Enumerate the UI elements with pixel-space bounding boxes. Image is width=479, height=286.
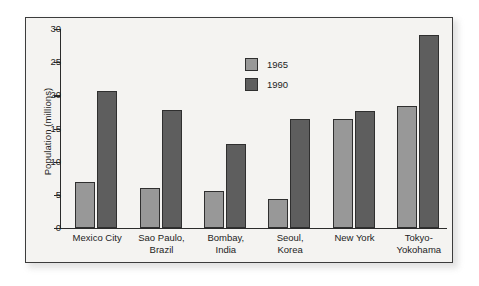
legend-label-1990: 1990: [267, 79, 288, 90]
bar-1965: [397, 106, 417, 228]
bar-1965: [333, 119, 353, 228]
y-tick-label: 20: [39, 89, 61, 100]
bar-chart: Population (millions) 051015202530 Mexic…: [26, 18, 452, 262]
x-axis-line: [60, 228, 447, 229]
bar-1965: [140, 188, 160, 228]
y-tick-label: 5: [39, 189, 61, 200]
x-axis-label-line: Tokyo-: [380, 232, 458, 244]
chart-frame: Population (millions) 051015202530 Mexic…: [25, 17, 453, 263]
bar-1990: [355, 111, 375, 228]
x-axis-label-line: Yokohama: [380, 244, 458, 256]
bar-1965: [75, 182, 95, 228]
legend-item-1965: 1965: [245, 56, 288, 73]
x-axis-label: Tokyo-Yokohama: [380, 232, 458, 255]
bar-1965: [204, 191, 224, 228]
bar-1990: [419, 35, 439, 228]
bar-1990: [162, 110, 182, 228]
bar-1990: [97, 91, 117, 228]
bar-group-bombay-india: Bombay,India: [204, 29, 246, 228]
bar-1965: [268, 199, 288, 228]
legend-swatch-1990: [245, 78, 258, 91]
y-tick-label: 10: [39, 156, 61, 167]
bar-group-new-york: New York: [333, 29, 375, 228]
x-axis-label-line: Korea: [251, 244, 329, 256]
legend-label-1965: 1965: [267, 59, 288, 70]
chart-legend: 1965 1990: [245, 56, 288, 96]
bar-1990: [290, 119, 310, 228]
bar-1990: [226, 144, 246, 228]
bar-group-tokyo-yokohama: Tokyo-Yokohama: [397, 29, 439, 228]
bar-group-sao-paulo-brazil: Sao Paulo,Brazil: [140, 29, 182, 228]
figure-root: Population (millions) 051015202530 Mexic…: [0, 0, 479, 286]
y-tick-label: 30: [39, 23, 61, 34]
bar-group-mexico-city: Mexico City: [75, 29, 117, 228]
y-tick-label: 15: [39, 123, 61, 134]
legend-item-1990: 1990: [245, 76, 288, 93]
y-tick-label: 25: [39, 56, 61, 67]
legend-swatch-1965: [245, 58, 258, 71]
